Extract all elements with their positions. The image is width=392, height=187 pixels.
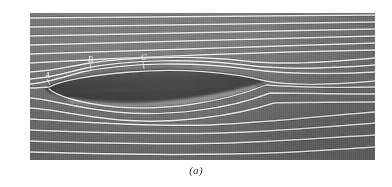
- figure-page: .s { fill:none; stroke:#ececec; stroke-w…: [0, 0, 392, 187]
- flow-visualization-photo: .s { fill:none; stroke:#ececec; stroke-w…: [30, 13, 375, 160]
- streamline-diagram: .s { fill:none; stroke:#ececec; stroke-w…: [30, 13, 375, 160]
- label-A: A: [44, 71, 51, 80]
- label-C: C: [141, 53, 147, 62]
- figure-caption: (a): [0, 164, 392, 176]
- label-B: B: [88, 55, 93, 64]
